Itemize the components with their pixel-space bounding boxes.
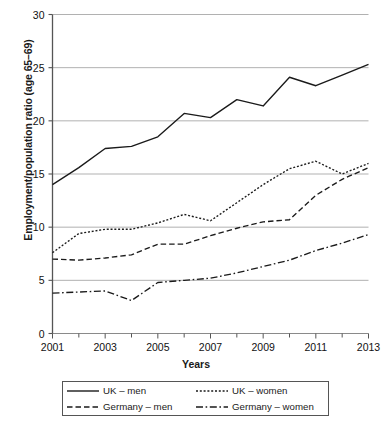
y-tick-label-30: 30 [19,10,45,20]
x-tick-label-2005: 2005 [138,342,178,352]
legend-item-1: UK – women [195,386,333,396]
x-tick-label-2013: 2013 [349,342,389,352]
y-tick-label-15: 15 [19,169,45,179]
legend-swatch-icon-0 [66,386,100,396]
legend-item-2: Germany – men [66,402,195,412]
x-tick-label-2011: 2011 [296,342,336,352]
x-tick-label-2007: 2007 [191,342,231,352]
x-tick-label-2009: 2009 [243,342,283,352]
y-tick-label-10: 10 [19,222,45,232]
series-line-2 [53,168,369,261]
y-tick-label-0: 0 [19,329,45,339]
legend-item-0: UK – men [66,386,195,396]
x-tick-label-2001: 2001 [33,342,73,352]
legend-label-3: Germany – women [232,402,314,412]
legend-swatch-icon-1 [195,386,229,396]
x-tick-label-2003: 2003 [85,342,125,352]
y-tick-label-20: 20 [19,116,45,126]
series-line-3 [53,235,369,301]
legend-label-0: UK – men [103,386,146,396]
y-tick-label-25: 25 [19,63,45,73]
legend-swatch-icon-2 [66,402,100,412]
series-line-0 [53,64,369,184]
y-tick-label-5: 5 [19,275,45,285]
line-chart: Employment/population ratio (age 65–69) … [0,0,392,424]
legend-label-2: Germany – men [103,402,172,412]
x-axis-title: Years [0,358,392,370]
legend: UK – menUK – womenGermany – menGermany –… [62,381,329,416]
legend-item-3: Germany – women [195,402,333,412]
series-line-1 [53,161,369,252]
legend-swatch-icon-3 [195,402,229,412]
legend-label-1: UK – women [232,386,287,396]
